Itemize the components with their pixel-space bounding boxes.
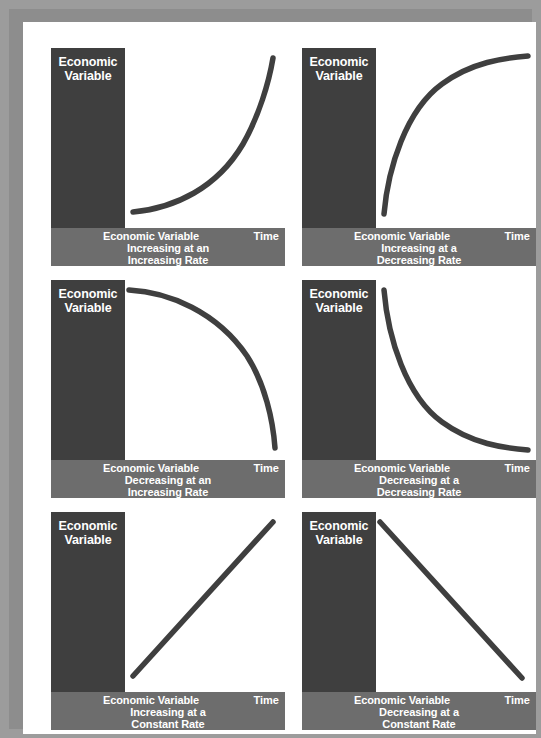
caption-line3: Decreasing Rate <box>302 486 536 498</box>
y-axis-label-line1: Economic <box>51 287 125 301</box>
x-axis-label: Time <box>505 230 530 242</box>
y-axis-block: Economic Variable <box>302 280 376 460</box>
plot-area <box>376 48 536 228</box>
x-axis-caption-band: Economic Variable Increasing at a Decrea… <box>302 228 536 266</box>
panel-grid: Economic Variable Economic Variable <box>51 48 536 736</box>
y-axis-label: Economic Variable <box>302 287 376 315</box>
chart-panel-decreasing-constant: Economic Variable Economic Variable <box>302 512 536 730</box>
panel-caption: Economic Variable Decreasing at a Decrea… <box>302 462 536 498</box>
panel-caption: Economic Variable Decreasing at a Consta… <box>302 694 536 730</box>
y-axis-label: Economic Variable <box>51 55 125 83</box>
y-axis-label-line2: Variable <box>51 69 125 83</box>
y-axis-label-line2: Variable <box>51 301 125 315</box>
chart-panel-decreasing-increasing: Economic Variable Economic Variable <box>51 280 285 498</box>
caption-line1: Economic Variable <box>302 230 536 242</box>
caption-line1: Economic Variable <box>302 462 536 474</box>
caption-line3: Increasing Rate <box>51 254 285 266</box>
panel-caption: Economic Variable Increasing at a Consta… <box>51 694 285 730</box>
y-axis-label-line2: Variable <box>51 533 125 547</box>
chart-panel-increasing-constant: Economic Variable Economic Variable <box>51 512 285 730</box>
caption-line1: Economic Variable <box>51 694 285 706</box>
y-axis-label-line1: Economic <box>51 519 125 533</box>
panel-caption: Economic Variable Increasing at an Incre… <box>51 230 285 266</box>
y-axis-block: Economic Variable <box>51 48 125 228</box>
curve-path <box>129 290 275 448</box>
y-axis-label-line1: Economic <box>51 55 125 69</box>
plot-area <box>125 48 285 228</box>
y-axis-label-line2: Variable <box>302 533 376 547</box>
curve-path <box>384 56 528 214</box>
x-axis-caption-band: Economic Variable Decreasing at an Incre… <box>51 460 285 498</box>
caption-line3: Increasing Rate <box>51 486 285 498</box>
caption-line1: Economic Variable <box>302 694 536 706</box>
x-axis-label: Time <box>254 694 279 706</box>
chart-panel-increasing-increasing: Economic Variable Economic Variable <box>51 48 285 266</box>
x-axis-caption-band: Economic Variable Increasing at a Consta… <box>51 692 285 730</box>
y-axis-label: Economic Variable <box>51 519 125 547</box>
caption-line1: Economic Variable <box>51 230 285 242</box>
caption-line3: Constant Rate <box>51 718 285 730</box>
x-axis-label: Time <box>505 694 530 706</box>
panel-caption: Economic Variable Increasing at a Decrea… <box>302 230 536 266</box>
caption-line2: Increasing at an <box>51 242 285 254</box>
plot-area <box>125 512 285 692</box>
y-axis-block: Economic Variable <box>51 512 125 692</box>
y-axis-label: Economic Variable <box>51 287 125 315</box>
caption-line2: Increasing at a <box>51 706 285 718</box>
x-axis-caption-band: Economic Variable Increasing at an Incre… <box>51 228 285 266</box>
y-axis-label-line1: Economic <box>302 55 376 69</box>
plot-area <box>125 280 285 460</box>
caption-line2: Decreasing at a <box>302 706 536 718</box>
caption-line2: Increasing at a <box>302 242 536 254</box>
chart-panel-increasing-decreasing: Economic Variable Economic Variable <box>302 48 536 266</box>
caption-line2: Decreasing at an <box>51 474 285 486</box>
curve-path <box>133 522 273 676</box>
y-axis-label-line1: Economic <box>302 519 376 533</box>
y-axis-label-line2: Variable <box>302 301 376 315</box>
caption-line2: Decreasing at a <box>302 474 536 486</box>
y-axis-label: Economic Variable <box>302 55 376 83</box>
y-axis-label: Economic Variable <box>302 519 376 547</box>
curve-path <box>380 522 522 678</box>
y-axis-block: Economic Variable <box>302 512 376 692</box>
plot-area <box>376 512 536 692</box>
plot-area <box>376 280 536 460</box>
y-axis-block: Economic Variable <box>51 280 125 460</box>
x-axis-label: Time <box>254 230 279 242</box>
y-axis-label-line1: Economic <box>302 287 376 301</box>
caption-line1: Economic Variable <box>51 462 285 474</box>
caption-line3: Decreasing Rate <box>302 254 536 266</box>
curve-path <box>133 58 273 212</box>
caption-line3: Constant Rate <box>302 718 536 730</box>
curve-path <box>384 290 528 450</box>
page-background: Economic Variable Economic Variable <box>23 22 536 734</box>
x-axis-label: Time <box>254 462 279 474</box>
x-axis-caption-band: Economic Variable Decreasing at a Consta… <box>302 692 536 730</box>
x-axis-label: Time <box>505 462 530 474</box>
y-axis-block: Economic Variable <box>302 48 376 228</box>
y-axis-label-line2: Variable <box>302 69 376 83</box>
chart-panel-decreasing-decreasing: Economic Variable Economic Variable <box>302 280 536 498</box>
outer-mat: Economic Variable Economic Variable <box>0 0 541 738</box>
x-axis-caption-band: Economic Variable Decreasing at a Decrea… <box>302 460 536 498</box>
panel-caption: Economic Variable Decreasing at an Incre… <box>51 462 285 498</box>
page-frame: Economic Variable Economic Variable <box>9 9 532 729</box>
